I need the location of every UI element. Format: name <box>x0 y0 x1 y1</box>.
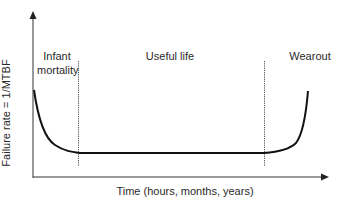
y-axis-arrow-icon <box>30 11 37 19</box>
x-axis-arrow-icon <box>321 174 329 181</box>
region-label-line2: mortality <box>37 64 77 76</box>
region-label-useful-life: Useful life <box>130 50 210 62</box>
region-label-infant-mortality: Infant mortality <box>37 50 77 76</box>
failure-rate-curve <box>34 90 308 153</box>
region-label-line1: Infant <box>37 50 77 62</box>
x-axis-label: Time (hours, months, years) <box>110 185 260 197</box>
bathtub-diagram <box>0 0 344 205</box>
y-axis-label: Failure rate = 1/MTBF <box>0 59 12 166</box>
region-label-wearout: Wearout <box>287 50 333 62</box>
